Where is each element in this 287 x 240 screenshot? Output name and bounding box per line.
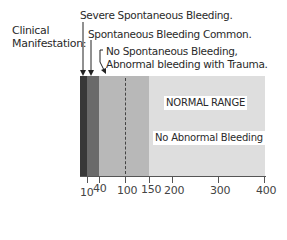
- tick-label-400: 400: [256, 184, 276, 197]
- dashed-marker-100: [125, 78, 126, 174]
- tick-label-40: 40: [93, 182, 106, 195]
- tick-400: [264, 176, 265, 183]
- tick-150: [149, 176, 150, 183]
- tick-label-150: 150: [141, 183, 161, 196]
- no-abnormal-bleeding-label: No Abnormal Bleeding: [153, 131, 265, 145]
- x-axis-line: [80, 176, 266, 177]
- normal-range-label: NORMAL RANGE: [164, 96, 247, 110]
- tick-100: [125, 176, 126, 183]
- arrow-none-icon: [100, 50, 104, 70]
- band-severe: [80, 76, 87, 176]
- tick-label-10: 10: [80, 186, 93, 199]
- band-normal: [149, 76, 265, 176]
- band-trauma: [99, 76, 149, 176]
- tick-300: [218, 176, 219, 183]
- tick-10: [87, 176, 88, 183]
- band-common: [87, 76, 99, 176]
- tick-label-300: 300: [210, 184, 230, 197]
- tick-label-200: 200: [164, 184, 184, 197]
- tick-label-100: 100: [117, 184, 137, 197]
- tick-200: [172, 176, 173, 183]
